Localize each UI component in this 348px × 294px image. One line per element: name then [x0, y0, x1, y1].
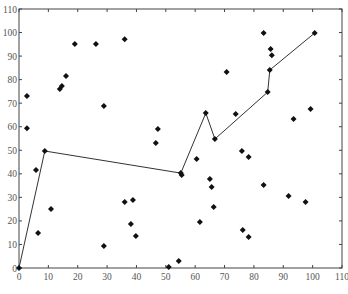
diamond-marker	[72, 41, 78, 47]
diamond-marker	[197, 219, 203, 225]
x-tick-label: 100	[306, 272, 321, 282]
x-tick-label: 90	[279, 272, 289, 282]
y-tick-label: 40	[8, 169, 18, 179]
y-tick-label: 100	[3, 28, 18, 38]
y-tick-label: 10	[8, 240, 18, 250]
diamond-marker	[42, 148, 48, 154]
diamond-marker	[233, 111, 239, 117]
diamond-marker	[209, 184, 215, 190]
diamond-marker	[33, 167, 39, 173]
diamond-marker	[224, 69, 230, 75]
y-tick-label: 80	[8, 75, 18, 85]
x-axis-tick-labels: 0102030405060708090100110	[17, 272, 348, 282]
diamond-marker	[153, 140, 159, 146]
diamond-marker	[101, 103, 107, 109]
y-tick-label: 110	[3, 5, 17, 15]
diamond-marker	[261, 182, 267, 188]
diamond-marker	[194, 156, 200, 162]
y-tick-label: 90	[8, 52, 18, 62]
diamond-marker	[240, 227, 246, 233]
diamond-marker	[133, 233, 139, 239]
x-tick-label: 80	[249, 272, 259, 282]
diamond-marker	[48, 206, 54, 212]
diamond-marker	[268, 46, 274, 52]
y-tick-label: 60	[8, 122, 18, 132]
diamond-marker	[35, 230, 41, 236]
x-tick-label: 50	[161, 272, 171, 282]
diamond-marker	[93, 41, 99, 47]
diamond-marker	[246, 234, 252, 240]
diamond-marker	[303, 199, 309, 205]
diamond-marker	[63, 73, 69, 79]
diamond-marker	[24, 125, 30, 131]
diamond-marker	[155, 126, 161, 132]
diamond-marker	[166, 264, 172, 270]
diamond-marker	[286, 193, 292, 199]
diamond-marker	[128, 221, 134, 227]
y-tick-label: 50	[8, 146, 18, 156]
diamond-marker	[130, 197, 136, 203]
x-tick-label: 0	[17, 272, 22, 282]
x-tick-label: 70	[220, 272, 230, 282]
x-tick-label: 40	[132, 272, 142, 282]
diamond-marker	[207, 176, 213, 182]
y-tick-label: 70	[8, 99, 18, 109]
diamond-marker	[269, 52, 275, 58]
y-tick-label: 20	[8, 216, 18, 226]
diamond-marker	[291, 116, 297, 122]
x-tick-label: 110	[335, 272, 348, 282]
diamond-marker	[211, 204, 217, 210]
diamond-marker	[246, 154, 252, 160]
axis-ticks	[19, 9, 342, 268]
x-tick-label: 60	[190, 272, 200, 282]
y-axis-tick-labels: 0102030405060708090100110	[3, 5, 18, 274]
x-tick-label: 20	[73, 272, 83, 282]
x-tick-label: 10	[44, 272, 54, 282]
plot-frame	[19, 9, 342, 268]
scatter-chart: 0102030405060708090100110 01020304050607…	[0, 0, 348, 294]
diamond-marker	[308, 106, 314, 112]
diamond-marker	[122, 199, 128, 205]
x-tick-label: 30	[102, 272, 112, 282]
diamond-marker	[24, 93, 30, 99]
diamond-marker	[203, 110, 209, 116]
y-tick-label: 30	[8, 193, 18, 203]
diamond-marker	[261, 30, 267, 36]
diamond-marker	[101, 243, 107, 249]
diamond-marker	[122, 36, 128, 42]
plot-border	[19, 9, 342, 268]
diamond-marker	[239, 148, 245, 154]
diamond-marker	[176, 258, 182, 264]
data-points	[16, 30, 318, 271]
